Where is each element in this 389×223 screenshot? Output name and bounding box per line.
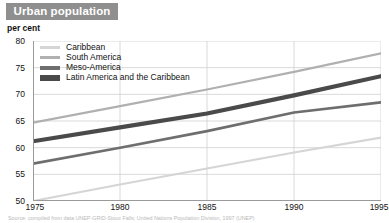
legend-swatch-icon [40,46,60,50]
legend-item[interactable]: Latin America and the Caribbean [40,73,190,82]
legend-label: South America [66,53,121,62]
page-title: Urban population [14,6,111,18]
x-tick-label: 1975 [25,203,44,212]
x-tick-label: 1980 [111,203,130,212]
y-tick-label: 55 [16,170,25,179]
legend-swatch-icon [40,66,60,70]
legend-swatch-icon [40,75,60,81]
x-axis: 19751980198519901995 [33,203,381,215]
x-tick-label: 1990 [285,203,304,212]
legend-label: Meso-America [66,63,121,72]
y-axis: 50556065707580 [0,41,30,201]
y-tick-label: 65 [16,117,25,126]
chart-title-banner: Urban population [6,3,118,20]
chart-legend: CaribbeanSouth AmericaMeso-AmericaLatin … [40,43,190,82]
y-tick-label: 75 [16,63,25,72]
x-tick-label: 1995 [370,203,389,212]
legend-item[interactable]: Meso-America [40,63,190,72]
legend-item[interactable]: Caribbean [40,43,190,52]
x-tick-label: 1985 [198,203,217,212]
y-tick-label: 80 [16,37,25,46]
y-tick-label: 70 [16,90,25,99]
legend-swatch-icon [40,56,60,60]
y-tick-label: 50 [16,197,25,206]
source-note: Source: compiled from data UNEP-GRID-Sio… [8,216,383,222]
y-axis-unit-label: per cent [7,24,40,33]
y-tick-label: 60 [16,143,25,152]
legend-label: Caribbean [66,43,105,52]
legend-item[interactable]: South America [40,53,190,62]
legend-label: Latin America and the Caribbean [66,73,190,82]
